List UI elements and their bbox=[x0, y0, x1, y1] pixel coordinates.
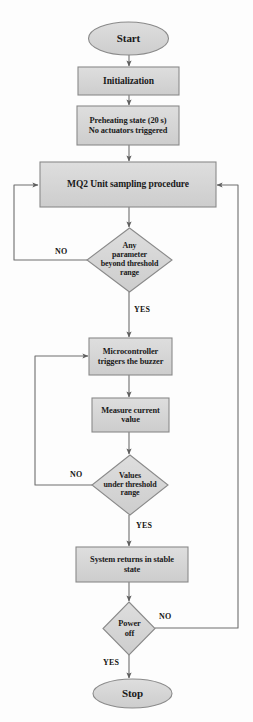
node-decision-parameter bbox=[87, 228, 172, 292]
branch-label-decision3-yes: YES bbox=[103, 658, 119, 667]
node-decision-power bbox=[103, 602, 155, 655]
node-start bbox=[89, 22, 169, 55]
branch-label-decision1-no: NO bbox=[55, 247, 67, 256]
branch-label-decision2-yes: YES bbox=[136, 521, 152, 530]
node-sampling bbox=[40, 162, 216, 207]
node-preheating bbox=[77, 106, 179, 145]
node-stop bbox=[93, 679, 172, 708]
branch-label-decision2-no: NO bbox=[70, 470, 82, 479]
node-decision-values bbox=[92, 455, 168, 515]
branch-label-decision3-no: NO bbox=[159, 612, 171, 621]
node-stable bbox=[76, 547, 188, 582]
branch-label-decision1-yes: YES bbox=[134, 305, 150, 314]
node-initialization bbox=[78, 67, 179, 95]
flowchart-canvas: Start Initialization Preheating state (2… bbox=[0, 0, 253, 722]
node-measure bbox=[92, 398, 169, 432]
flowchart-graphics bbox=[0, 0, 253, 722]
edge-decision2-no-loop bbox=[35, 356, 92, 485]
node-buzzer bbox=[89, 338, 172, 375]
